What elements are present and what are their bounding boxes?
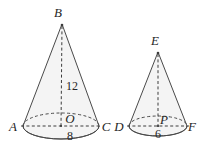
right-cone-center-label: P [159, 112, 168, 127]
right-cone-group: E P D F 6 [113, 33, 197, 141]
left-cone-apex-dot [61, 24, 64, 27]
right-cone-base-right-label: F [187, 119, 197, 134]
right-cone-apex-label: E [150, 33, 159, 48]
right-cone-apex-dot [157, 52, 160, 55]
left-cone-base-left-label: A [8, 119, 17, 134]
left-cone-diameter-label: 8 [67, 129, 73, 143]
left-cone-center-label: O [65, 111, 75, 126]
cone-diagram-canvas: B 12 O A C 8 E P [0, 0, 202, 151]
cone-diagram-figure: B 12 O A C 8 E P [0, 0, 202, 151]
right-cone-base-left-label: D [113, 119, 124, 134]
left-cone-group: B 12 O A C 8 [8, 5, 111, 143]
right-cone-diameter-label: 6 [155, 127, 161, 141]
left-cone-apex-label: B [54, 5, 62, 20]
left-cone-base-right-label: C [102, 119, 111, 134]
left-cone-center-dot [60, 125, 62, 127]
left-cone-height-label: 12 [66, 79, 78, 93]
